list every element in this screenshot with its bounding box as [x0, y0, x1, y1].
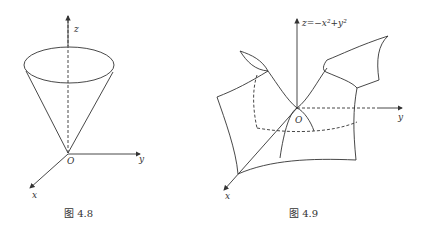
- saddle-hidden-left: [254, 75, 257, 128]
- diagram-canvas: z O y x 图 4.8 z=−x²+y² O y x 图 4.9: [0, 0, 427, 237]
- x-label: x: [225, 191, 230, 201]
- figure-4-8: [24, 16, 140, 188]
- equation-label: z=−x²+y²: [301, 18, 347, 28]
- origin-label: O: [295, 115, 303, 125]
- x-axis: [224, 108, 297, 190]
- figure-4-9: [217, 19, 402, 190]
- origin-label: O: [67, 156, 75, 166]
- saddle-front-edge: [238, 159, 356, 174]
- cone-side-left: [26, 71, 68, 153]
- figure-caption: 图 4.8: [64, 208, 93, 219]
- cone-rim: [24, 47, 114, 83]
- cone-side-right: [68, 72, 113, 153]
- z-label: z: [73, 24, 79, 34]
- saddle-right-front-edge: [354, 88, 357, 160]
- saddle-ridge-left: [268, 71, 297, 108]
- saddle-hidden-bottom: [257, 122, 357, 132]
- saddle-right-back-edge: [357, 36, 388, 88]
- figure-caption: 图 4.9: [289, 208, 318, 219]
- y-label: y: [397, 112, 404, 122]
- saddle-left-top: [217, 51, 268, 97]
- saddle-left-edge: [217, 97, 238, 174]
- x-axis: [30, 154, 68, 188]
- y-label: y: [138, 154, 145, 164]
- saddle-ridge-right: [297, 68, 327, 108]
- x-label: x: [32, 190, 37, 200]
